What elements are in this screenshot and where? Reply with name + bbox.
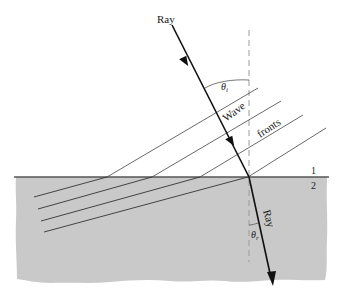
diagram-svg: Ray θi Wave fronts 1 2 Ray θr [0,0,345,301]
theta-r-subscript: r [256,234,259,242]
theta-i-subscript: i [226,86,228,94]
theta-i-label: θi [221,81,228,94]
arrow-icon [225,136,237,149]
incident-ray-label: Ray [157,13,175,25]
medium-1-label: 1 [311,165,316,176]
wave-label: Wave [220,99,247,123]
refraction-diagram: Ray θi Wave fronts 1 2 Ray θr [0,0,345,301]
wavefront-line [200,115,303,177]
wavefront-line [107,88,258,177]
wavefronts-medium-1 [107,88,326,177]
medium-2-label: 2 [311,180,316,191]
medium-2-region [16,177,328,283]
